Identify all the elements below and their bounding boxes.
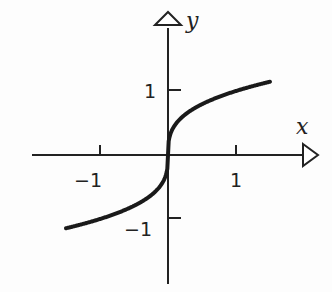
cube-root-plot: y x −1 1 1 −1: [0, 0, 332, 292]
x-tick-label-1: 1: [230, 169, 242, 191]
x-axis-arrow-icon: [303, 144, 318, 166]
y-tick-label-neg1: −1: [124, 218, 152, 240]
x-tick-label-neg1: −1: [74, 169, 102, 191]
y-axis-arrow-icon: [155, 12, 181, 25]
x-axis-label: x: [296, 114, 309, 139]
y-axis-label: y: [185, 8, 199, 33]
y-tick-label-1: 1: [144, 80, 156, 102]
chart: y x −1 1 1 −1: [0, 0, 332, 292]
